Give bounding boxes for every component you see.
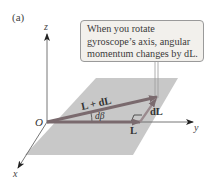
- label-dL: dL: [150, 106, 163, 117]
- callout-line: momentum changes by dL.: [87, 48, 199, 61]
- callout-box: When you rotate gyroscope’s axis, angula…: [80, 20, 204, 62]
- label-angle: dβ: [95, 111, 105, 121]
- callout-line: When you rotate: [87, 23, 199, 36]
- z-axis-label: z: [43, 21, 48, 32]
- panel-label: (a): [12, 11, 25, 24]
- origin-label: O: [35, 116, 43, 128]
- label-L: L: [130, 125, 137, 136]
- y-axis-label: y: [193, 122, 199, 133]
- callout-line: gyroscope’s axis, angular: [87, 36, 199, 49]
- x-axis-label: x: [12, 168, 18, 179]
